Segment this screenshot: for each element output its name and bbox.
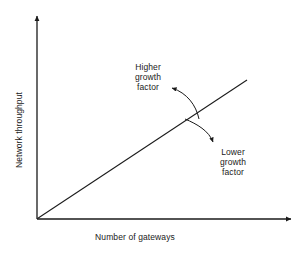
- annotation-lower-line-3: factor: [203, 167, 263, 177]
- y-axis-title: Network throughput: [14, 40, 24, 220]
- diagram-canvas: Higher growth factor Lower growth factor…: [0, 0, 307, 263]
- plot-area: [0, 0, 307, 263]
- annotation-higher-line-1: Higher: [118, 62, 178, 72]
- x-axis-title: Number of gateways: [0, 232, 270, 242]
- annotation-lower-growth-factor: Lower growth factor: [203, 147, 263, 177]
- annotation-higher-line-3: factor: [118, 82, 178, 92]
- annotation-lower-line-2: growth: [203, 157, 263, 167]
- lower-growth-arrow: [185, 119, 213, 142]
- annotation-lower-line-1: Lower: [203, 147, 263, 157]
- annotation-higher-growth-factor: Higher growth factor: [118, 62, 178, 92]
- annotation-higher-line-2: growth: [118, 72, 178, 82]
